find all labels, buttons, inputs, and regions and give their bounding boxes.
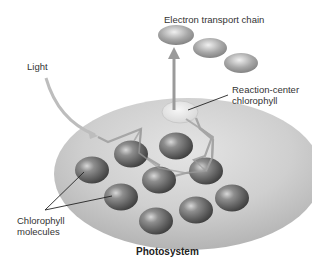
diagram-title: Photosystem [136, 246, 199, 257]
reaction-center-label-line2: chlorophyll [232, 95, 299, 106]
reaction-center-label-line1: Reaction-center [232, 84, 299, 95]
etc-carrier [158, 25, 194, 45]
etc-carrier [224, 53, 258, 73]
chlorophyll-molecule [179, 197, 213, 224]
light-label: Light [27, 61, 48, 72]
chlorophyll-molecule [215, 185, 249, 212]
chlorophyll-molecule [75, 157, 109, 184]
reaction-center-chlorophyll [162, 101, 198, 123]
etc-carrier [193, 38, 227, 58]
electron-arrow-head-icon [168, 47, 180, 59]
chlorophyll-molecule [159, 133, 193, 160]
reaction-center-label: Reaction-center chlorophyll [232, 84, 299, 106]
chlorophyll-molecule [114, 141, 148, 168]
chlorophyll-label-line2: molecules [17, 226, 65, 237]
chlorophyll-label: Chlorophyll molecules [17, 215, 65, 237]
chlorophyll-molecule [139, 208, 173, 235]
etc-label: Electron transport chain [164, 14, 264, 25]
chlorophyll-label-line1: Chlorophyll [17, 215, 65, 226]
